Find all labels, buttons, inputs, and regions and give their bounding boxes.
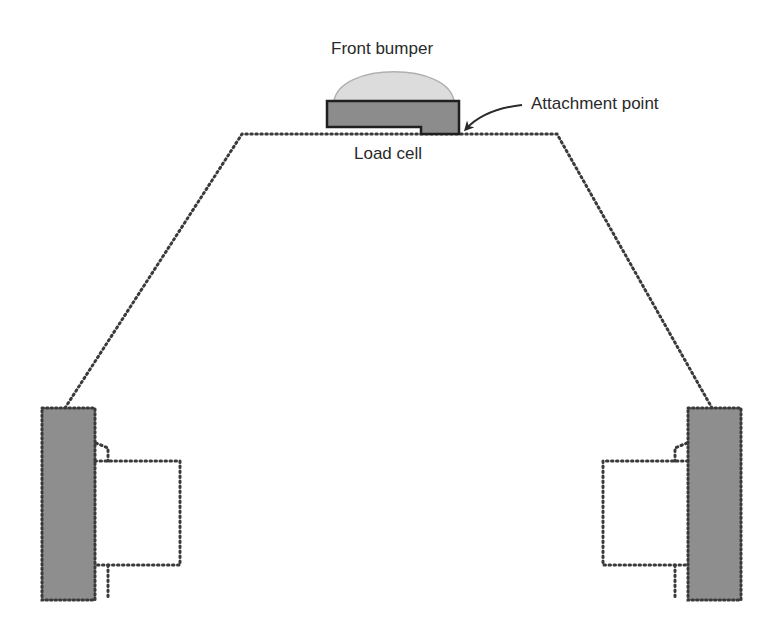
- right-wheel: [688, 408, 741, 600]
- front-bumper: [334, 72, 454, 101]
- left-wheel: [42, 408, 95, 600]
- right-motor: [603, 443, 688, 599]
- chassis-outline: [65, 134, 712, 408]
- load-cell-label: Load cell: [354, 144, 422, 164]
- robot-diagram: [0, 0, 784, 630]
- front-bumper-label: Front bumper: [331, 39, 433, 59]
- left-motor: [95, 443, 180, 599]
- attachment-point-label: Attachment point: [531, 94, 659, 114]
- attachment-point-arrow: [466, 105, 522, 129]
- load-cell: [327, 101, 459, 134]
